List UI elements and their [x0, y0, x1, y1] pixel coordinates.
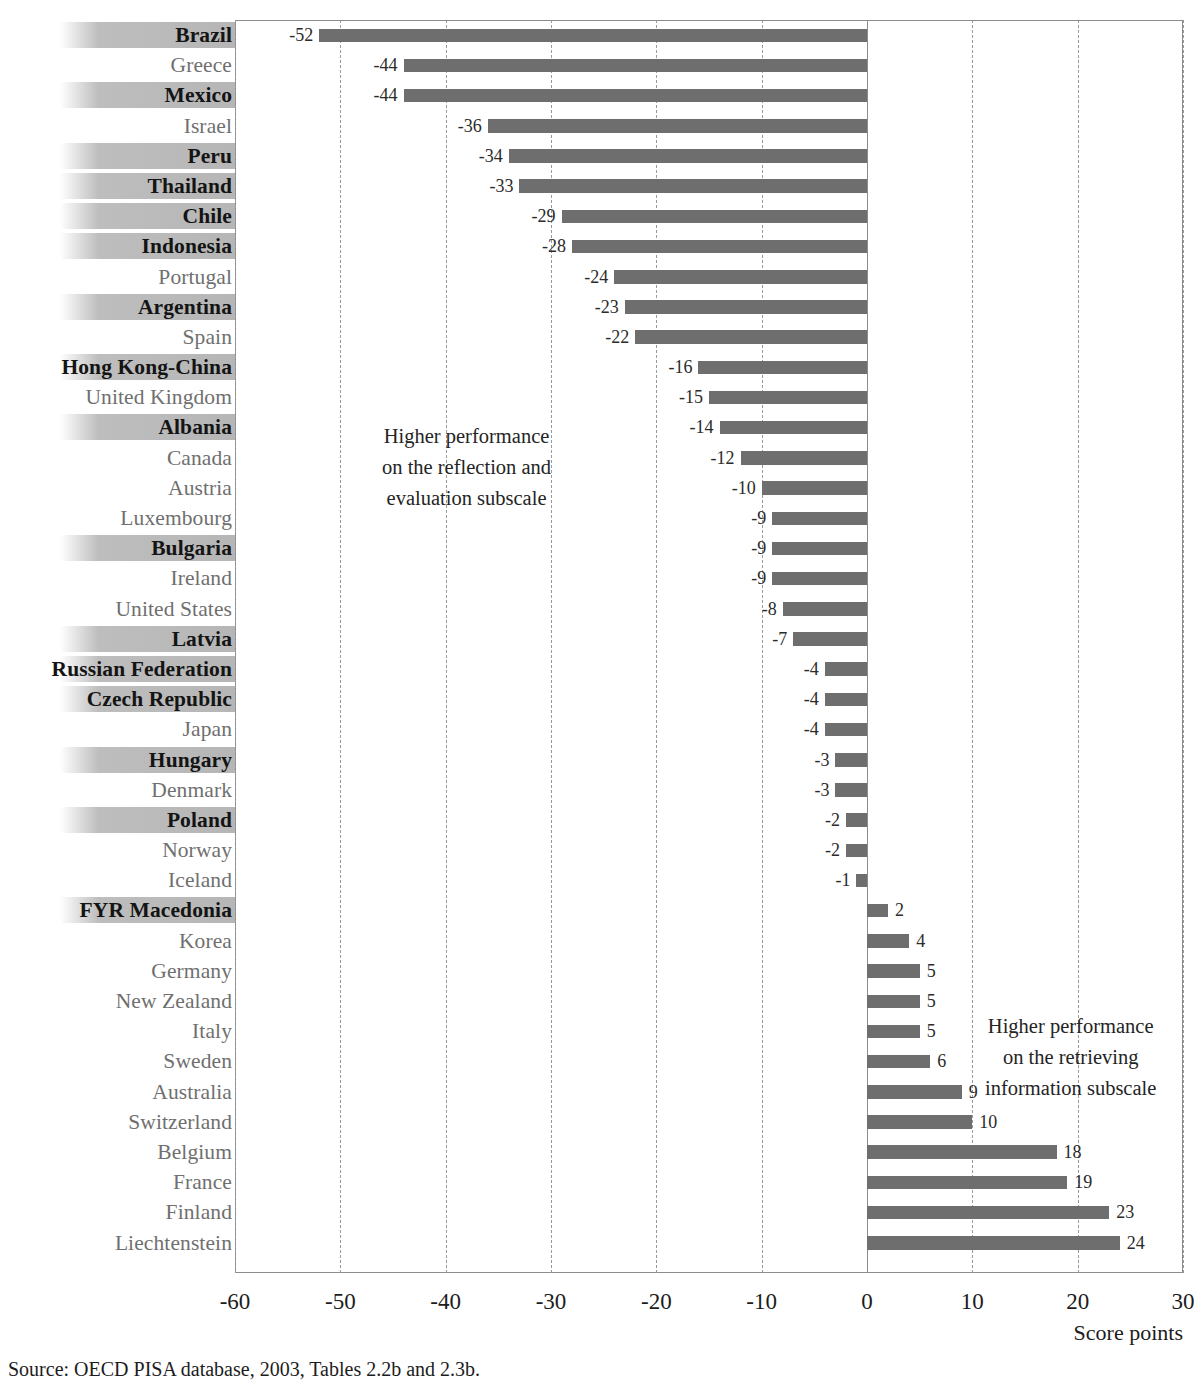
bar — [793, 632, 867, 646]
chart-row: Greece-44 — [0, 50, 1197, 80]
annotation-right-line-3: information subscale — [985, 1073, 1156, 1104]
bar-value-label: -3 — [793, 776, 829, 804]
country-label: Latvia — [172, 625, 232, 653]
annotation-right-line-2: on the retrieving — [985, 1042, 1156, 1073]
bar-value-label: -4 — [783, 685, 819, 713]
bar-value-label: -3 — [793, 746, 829, 774]
x-tick--60: -60 — [220, 1285, 251, 1319]
country-label: New Zealand — [116, 987, 232, 1015]
country-label: Spain — [183, 323, 232, 351]
bar-value-label: -24 — [572, 263, 608, 291]
bar-value-label: 9 — [969, 1078, 978, 1106]
bar — [867, 934, 909, 948]
country-label: Canada — [167, 444, 232, 472]
bar-value-label: 5 — [927, 987, 936, 1015]
bar — [635, 330, 867, 344]
country-label: Japan — [183, 715, 232, 743]
bar-value-label: -12 — [699, 444, 735, 472]
bar-value-label: -28 — [530, 232, 566, 260]
x-tick--40: -40 — [430, 1285, 461, 1319]
bar — [772, 572, 867, 586]
bar-value-label: 18 — [1064, 1138, 1082, 1166]
bar-value-label: -44 — [362, 81, 398, 109]
bar — [825, 723, 867, 737]
bar-value-label: -15 — [667, 383, 703, 411]
bar-value-label: 6 — [937, 1047, 946, 1075]
annotation-retrieving-information: Higher performance on the retrieving inf… — [985, 1011, 1156, 1104]
bar — [772, 512, 867, 526]
chart-row: Argentina-23 — [0, 292, 1197, 322]
chart-row: Luxembourg-9 — [0, 503, 1197, 533]
bar-value-label: -33 — [477, 172, 513, 200]
bar — [762, 481, 867, 495]
bar-value-label: -29 — [520, 202, 556, 230]
bar-value-label: -44 — [362, 51, 398, 79]
chart-row: Norway-2 — [0, 835, 1197, 865]
country-label: Hungary — [149, 746, 232, 774]
country-label: Peru — [187, 142, 232, 170]
bar-value-label: -22 — [593, 323, 629, 351]
bar — [846, 844, 867, 858]
bar — [867, 1085, 962, 1099]
country-label: Luxembourg — [120, 504, 232, 532]
bar — [509, 149, 867, 163]
chart-row: Denmark-3 — [0, 775, 1197, 805]
chart-row: FYR Macedonia2 — [0, 895, 1197, 925]
bar-value-label: 5 — [927, 1017, 936, 1045]
bar — [572, 240, 867, 254]
country-label: Germany — [151, 957, 232, 985]
bar — [404, 89, 867, 103]
country-label: Chile — [183, 202, 232, 230]
chart-row: Canada-12 — [0, 443, 1197, 473]
chart-row: Brazil-52 — [0, 20, 1197, 50]
source-label: Source: — [8, 1358, 69, 1380]
chart-row: Peru-34 — [0, 141, 1197, 171]
bar-value-label: 4 — [916, 927, 925, 955]
bar — [720, 421, 867, 435]
country-label: Greece — [171, 51, 232, 79]
chart-row: Poland-2 — [0, 805, 1197, 835]
bar — [856, 874, 867, 888]
chart-row: Hong Kong-China-16 — [0, 352, 1197, 382]
x-axis-title: Score points — [1074, 1320, 1183, 1346]
chart-row: Israel-36 — [0, 111, 1197, 141]
x-tick-30: 30 — [1172, 1285, 1195, 1319]
bar-value-label: 24 — [1127, 1229, 1145, 1257]
bar-value-label: 10 — [979, 1108, 997, 1136]
bar — [867, 964, 920, 978]
country-label: Bulgaria — [151, 534, 232, 562]
bar-value-label: -10 — [720, 474, 756, 502]
bar — [825, 693, 867, 707]
chart-row: Ireland-9 — [0, 563, 1197, 593]
country-label: France — [173, 1168, 232, 1196]
annotation-right-line-1: Higher performance — [985, 1011, 1156, 1042]
bar — [698, 361, 867, 375]
bar-value-label: -2 — [804, 836, 840, 864]
chart-row: Finland23 — [0, 1197, 1197, 1227]
annotation-left-line-1: Higher performance — [382, 421, 551, 452]
country-label: FYR Macedonia — [80, 896, 232, 924]
bar-value-label: -52 — [277, 21, 313, 49]
chart-row: Bulgaria-9 — [0, 533, 1197, 563]
bar-value-label: -34 — [467, 142, 503, 170]
country-label: Hong Kong-China — [61, 353, 232, 381]
bar-value-label: 5 — [927, 957, 936, 985]
x-tick--30: -30 — [536, 1285, 567, 1319]
chart-row: Iceland-1 — [0, 865, 1197, 895]
chart-row: Korea4 — [0, 926, 1197, 956]
chart-row: Belgium18 — [0, 1137, 1197, 1167]
chart-row: Albania-14 — [0, 412, 1197, 442]
x-tick-20: 20 — [1066, 1285, 1089, 1319]
x-tick--10: -10 — [746, 1285, 777, 1319]
chart-row: Spain-22 — [0, 322, 1197, 352]
country-label: Belgium — [157, 1138, 232, 1166]
chart-row: Chile-29 — [0, 201, 1197, 231]
country-label: Portugal — [158, 263, 232, 291]
country-label: Norway — [162, 836, 232, 864]
chart-row: Russian Federation-4 — [0, 654, 1197, 684]
bar — [709, 391, 867, 405]
chart-row: United States-8 — [0, 594, 1197, 624]
chart-row: Indonesia-28 — [0, 231, 1197, 261]
chart-row: Switzerland10 — [0, 1107, 1197, 1137]
bar — [867, 1206, 1109, 1220]
